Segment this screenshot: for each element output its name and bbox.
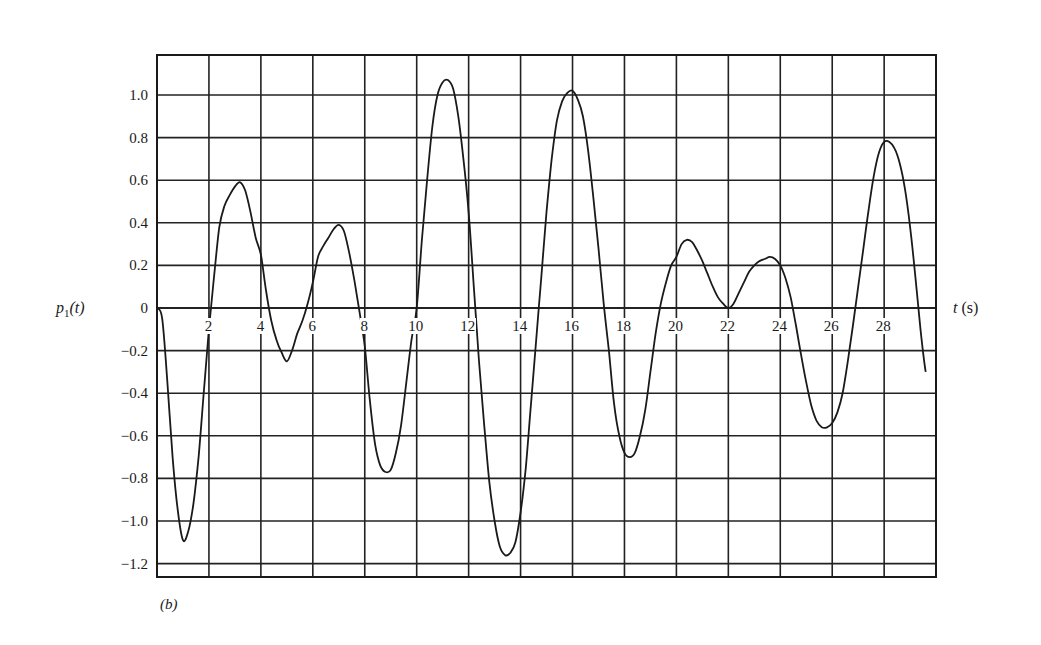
- y-axis-label-base: p: [56, 299, 64, 316]
- grid-lines: [157, 55, 936, 577]
- x-tick-label: 14: [511, 318, 528, 334]
- x-axis-label-var: t: [953, 299, 957, 316]
- x-tick-label: 8: [360, 318, 370, 334]
- x-tick-label: 4: [256, 318, 266, 334]
- x-tick-label: 6: [308, 318, 318, 334]
- x-tick-label: 2: [204, 318, 214, 334]
- y-tick-label: −0.2: [88, 343, 148, 359]
- plot-frame: [157, 55, 936, 577]
- y-tick-label: −0.4: [88, 385, 148, 401]
- y-tick-label: −1.2: [88, 556, 148, 572]
- y-tick-label: −0.6: [88, 428, 148, 444]
- x-tick-label: 16: [563, 318, 580, 334]
- y-tick-label: 0: [88, 300, 148, 316]
- x-tick-label: 20: [667, 318, 684, 334]
- x-tick-label: 18: [615, 318, 632, 334]
- x-tick-label: 24: [771, 318, 788, 334]
- x-tick-label: 28: [875, 318, 892, 334]
- x-tick-label: 10: [407, 318, 424, 334]
- y-tick-label: −1.0: [88, 513, 148, 529]
- y-tick-label: −0.8: [88, 470, 148, 486]
- y-tick-label: 0.6: [88, 172, 148, 188]
- y-tick-label: 0.2: [88, 257, 148, 273]
- y-axis-label-arg: (t): [70, 299, 85, 316]
- data-curve-p1: [157, 80, 926, 556]
- y-tick-label: 1.0: [88, 87, 148, 103]
- panel-label: (b): [160, 596, 178, 613]
- x-tick-label: 22: [719, 318, 736, 334]
- x-axis-label-unit: (s): [961, 299, 978, 316]
- y-tick-label: 0.4: [88, 215, 148, 231]
- x-tick-label: 12: [459, 318, 476, 334]
- x-tick-label: 26: [823, 318, 840, 334]
- y-axis-label: p1(t): [56, 299, 85, 319]
- y-tick-label: 0.8: [88, 130, 148, 146]
- x-axis-label: t (s): [953, 299, 978, 317]
